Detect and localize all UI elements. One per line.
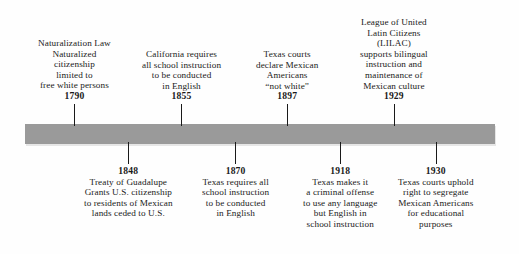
event-description-line: school instruction <box>303 219 377 230</box>
event-year-label: 1855 <box>142 91 221 102</box>
event-description-line: to residents of Mexican <box>84 198 173 209</box>
timeline-event-1790: Naturalization LawNaturalizedcitizenship… <box>38 38 111 102</box>
event-year-label: 1929 <box>360 91 428 102</box>
event-description-line: all school instruction <box>142 60 221 71</box>
tick-mark-1897 <box>287 104 288 126</box>
event-description-line: maintenance of <box>360 70 428 81</box>
event-description-line: Naturalization Law <box>38 38 111 49</box>
event-description-line: right to segregate <box>398 187 474 198</box>
tick-mark-1918 <box>340 142 341 164</box>
event-description-line: but English in <box>303 208 377 219</box>
timeline-event-1918: 1918Texas makes ita criminal offenseto u… <box>303 166 377 230</box>
event-year-label: 1930 <box>398 166 474 177</box>
event-description-line: declare Mexican <box>256 60 318 71</box>
tick-mark-1848 <box>128 142 129 164</box>
event-description-line: for educational <box>398 208 474 219</box>
event-description-line: lands ceded to U.S. <box>84 208 173 219</box>
event-description-line: school instruction <box>202 187 269 198</box>
event-year-label: 1790 <box>38 91 111 102</box>
event-description-line: Treaty of Guadalupe <box>84 177 173 188</box>
tick-mark-1855 <box>181 104 182 126</box>
event-year-label: 1897 <box>256 91 318 102</box>
timeline-event-1848: 1848Treaty of GuadalupeGrants U.S. citiz… <box>84 166 173 219</box>
timeline-event-1870: 1870Texas requires allschool instruction… <box>202 166 269 219</box>
event-description-line: Latin Citizens <box>360 28 428 39</box>
timeline-event-1929: League of UnitedLatin Citizens(LILAC)sup… <box>360 17 428 102</box>
event-description-line: Texas courts uphold <box>398 177 474 188</box>
event-description-line: Texas courts <box>256 49 318 60</box>
event-description-line: to be conducted <box>142 70 221 81</box>
event-year-label: 1918 <box>303 166 377 177</box>
event-description-line: limited to <box>38 70 111 81</box>
event-description-line: Americans <box>256 70 318 81</box>
timeline-event-1897: Texas courtsdeclare MexicanAmericans“not… <box>256 49 318 102</box>
tick-mark-1870 <box>235 142 236 164</box>
timeline-figure: Naturalization LawNaturalizedcitizenship… <box>0 0 519 254</box>
tick-mark-1790 <box>74 104 75 126</box>
event-description-line: (LILAC) <box>360 38 428 49</box>
event-description-line: instruction and <box>360 59 428 70</box>
event-description-line: Mexican Americans <box>398 198 474 209</box>
event-description-line: Texas makes it <box>303 177 377 188</box>
event-description-line: Texas requires all <box>202 177 269 188</box>
tick-mark-1929 <box>394 104 395 126</box>
timeline-event-1930: 1930Texas courts upholdright to segregat… <box>398 166 474 230</box>
event-description-line: citizenship <box>38 59 111 70</box>
event-description-line: supports bilingual <box>360 49 428 60</box>
event-description-line: California requires <box>142 49 221 60</box>
timeline-axis-bar <box>25 124 495 144</box>
event-year-label: 1870 <box>202 166 269 177</box>
event-description-line: purposes <box>398 219 474 230</box>
event-description-line: Naturalized <box>38 49 111 60</box>
timeline-event-1855: California requiresall school instructio… <box>142 49 221 102</box>
event-description-line: Grants U.S. citizenship <box>84 187 173 198</box>
tick-mark-1930 <box>436 142 437 164</box>
event-description-line: in English <box>202 208 269 219</box>
event-description-line: to use any language <box>303 198 377 209</box>
event-description-line: to be conducted <box>202 198 269 209</box>
event-year-label: 1848 <box>84 166 173 177</box>
event-description-line: a criminal offense <box>303 187 377 198</box>
event-description-line: League of United <box>360 17 428 28</box>
